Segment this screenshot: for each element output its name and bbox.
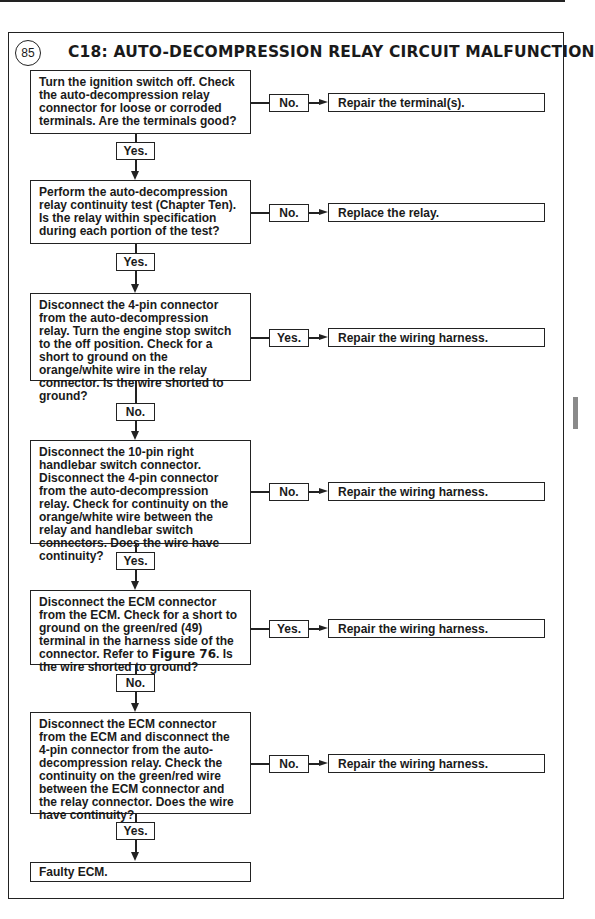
step-3-result: Repair the wiring harness. (328, 328, 545, 347)
step-4-down-label: Yes. (116, 552, 155, 570)
step-6-side-label: No. (269, 755, 309, 773)
arrow-right-icon (319, 760, 328, 766)
arrow-right-icon (319, 625, 328, 631)
arrow-down-icon (131, 171, 139, 180)
connector-line (135, 271, 137, 285)
arrow-down-icon (131, 581, 139, 590)
arrow-down-icon (131, 431, 139, 440)
figure-title: C18: AUTO-DECOMPRESSION RELAY CIRCUIT MA… (68, 43, 595, 61)
figure-reference: Figure 76 (152, 647, 216, 661)
final-result-box: Faulty ECM. (30, 862, 251, 882)
step-1-down-label: Yes. (116, 142, 155, 160)
arrow-right-icon (319, 99, 328, 105)
figure-number-badge: 85 (15, 40, 41, 66)
step-6-result: Repair the wiring harness. (328, 754, 545, 773)
connector-line (251, 337, 269, 339)
step-1-result: Repair the terminal(s). (328, 93, 545, 112)
step-5-box: Disconnect the ECM connector from the EC… (30, 590, 251, 665)
arrow-right-icon (319, 334, 328, 340)
step-4-side-label: No. (269, 483, 309, 501)
connector-line (251, 102, 269, 104)
arrow-down-icon (131, 852, 139, 861)
step-4-box: Disconnect the 10-pin right handlebar sw… (30, 440, 251, 544)
step-2-down-label: Yes. (116, 253, 155, 271)
connector-line (135, 244, 137, 253)
step-1-side-label: No. (269, 94, 309, 112)
arrow-down-icon (131, 284, 139, 293)
step-3-down-label: No. (116, 403, 155, 421)
step-5-result: Repair the wiring harness. (328, 619, 545, 638)
step-3-box: Disconnect the 4-pin connector from the … (30, 293, 251, 381)
connector-line (251, 628, 269, 630)
page-edge-tab (573, 397, 578, 429)
step-2-side-label: No. (269, 204, 309, 222)
arrow-right-icon (319, 488, 328, 494)
connector-line (251, 763, 269, 765)
step-3-side-label: Yes. (269, 329, 309, 347)
arrow-down-icon (131, 703, 139, 712)
connector-line (135, 544, 137, 552)
step-6-down-label: Yes. (116, 822, 155, 840)
connector-line (135, 814, 137, 822)
step-5-down-label: No. (116, 674, 155, 692)
step-4-result: Repair the wiring harness. (328, 482, 545, 501)
step-5-side-label: Yes. (269, 620, 309, 638)
connector-line (251, 212, 269, 214)
arrow-right-icon (319, 209, 328, 215)
connector-line (135, 665, 137, 674)
connector-line (135, 134, 137, 142)
page-top-rule (0, 0, 565, 2)
step-2-result: Replace the relay. (328, 203, 545, 222)
connector-line (135, 381, 137, 403)
step-2-box: Perform the auto-decompression relay con… (30, 180, 251, 244)
connector-line (251, 491, 269, 493)
step-6-box: Disconnect the ECM connector from the EC… (30, 712, 251, 814)
step-1-box: Turn the ignition switch off. Check the … (30, 70, 251, 134)
